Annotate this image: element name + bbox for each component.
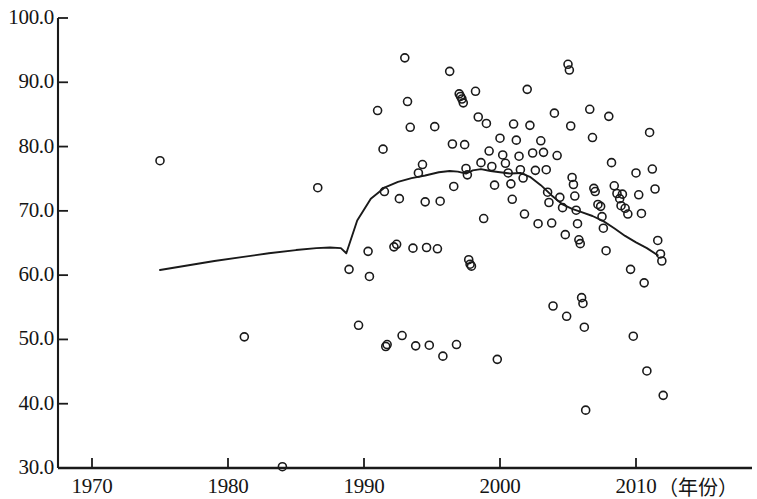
y-axis-tick-label: 70.0 [0, 198, 54, 223]
scatter-point [637, 209, 645, 217]
scatter-point [526, 121, 534, 129]
scatter-point [423, 244, 431, 252]
scatter-point [646, 128, 654, 136]
scatter-point [635, 191, 643, 199]
y-axis-ticks [58, 18, 68, 468]
x-axis-tick-label: 1990 [324, 474, 404, 499]
scatter-point [374, 107, 382, 115]
scatter-point [418, 161, 426, 169]
y-axis-tick-label: 90.0 [0, 69, 54, 94]
scatter-point [485, 147, 493, 155]
scatter-point [580, 323, 588, 331]
scatter-point [512, 136, 520, 144]
scatter-point [446, 67, 454, 75]
scatter-point [409, 244, 417, 252]
scatter-point [278, 463, 286, 471]
x-axis-tick-label: 1980 [188, 474, 268, 499]
plot-canvas [0, 0, 757, 499]
scatter-point [510, 120, 518, 128]
scatter-point [567, 122, 575, 130]
scatter-point [627, 265, 635, 273]
scatter-point [515, 152, 523, 160]
scatter-point [632, 169, 640, 177]
scatter-point [542, 166, 550, 174]
x-axis-label: （年份） [658, 472, 738, 499]
scatter-point [401, 54, 409, 62]
scatter-point [507, 180, 515, 188]
scatter-point [461, 141, 469, 149]
scatter-point [406, 123, 414, 131]
x-axis-ticks [92, 458, 636, 468]
y-axis-tick-label: 100.0 [0, 5, 54, 30]
scatter-point [534, 220, 542, 228]
scatter-point [537, 137, 545, 145]
scatter-point [529, 149, 537, 157]
scatter-point [548, 219, 556, 227]
scatter-point [643, 367, 651, 375]
scatter-point [345, 265, 353, 273]
scatter-point [550, 109, 558, 117]
x-axis-tick-label: 2000 [460, 474, 540, 499]
scatter-points [156, 54, 667, 471]
scatter-point [472, 87, 480, 95]
scatter-point [608, 159, 616, 167]
scatter-point [412, 342, 420, 350]
scatter-point [488, 163, 496, 171]
scatter-point [553, 152, 561, 160]
scatter-point [474, 113, 482, 121]
scatter-point [610, 182, 618, 190]
x-axis-tick-label: 1970 [52, 474, 132, 499]
scatter-point [540, 148, 548, 156]
scatter-point [314, 184, 322, 192]
scatter-point [599, 224, 607, 232]
scatter-point [563, 312, 571, 320]
scatter-point [545, 199, 553, 207]
scatter-point [355, 321, 363, 329]
y-axis-tick-label: 50.0 [0, 326, 54, 351]
y-axis-tick-label: 60.0 [0, 262, 54, 287]
axes [58, 18, 752, 468]
scatter-point [605, 112, 613, 120]
scatter-point [491, 181, 499, 189]
scatter-point [493, 355, 501, 363]
scatter-point [582, 406, 590, 414]
scatter-point [364, 247, 372, 255]
scatter-point [421, 198, 429, 206]
scatter-point [520, 210, 528, 218]
scatter-point [433, 245, 441, 253]
scatter-point [501, 159, 509, 167]
scatter-point [549, 302, 557, 310]
scatter-point [586, 105, 594, 113]
scatter-point [448, 140, 456, 148]
scatter-point [240, 333, 248, 341]
scatter-point [452, 341, 460, 349]
scatter-point [654, 236, 662, 244]
y-axis-tick-label: 80.0 [0, 134, 54, 159]
scatter-point [499, 151, 507, 159]
scatter-point [436, 197, 444, 205]
y-axis-tick-label: 40.0 [0, 391, 54, 416]
scatter-point [659, 391, 667, 399]
scatter-point [431, 123, 439, 131]
scatter-point [365, 272, 373, 280]
scatter-point [561, 231, 569, 239]
scatter-point [651, 185, 659, 193]
trend-line [160, 169, 658, 270]
scatter-point [574, 220, 582, 228]
scatter-point [482, 119, 490, 127]
scatter-point [602, 247, 610, 255]
scatter-point [648, 165, 656, 173]
scatter-point [531, 166, 539, 174]
scatter-point [496, 134, 504, 142]
scatter-point [588, 134, 596, 142]
scatter-point [523, 85, 531, 93]
scatter-point [425, 341, 433, 349]
scatter-point [398, 332, 406, 340]
scatter-point [508, 195, 516, 203]
y-axis-tick-label: 30.0 [0, 455, 54, 480]
scatter-point [404, 98, 412, 106]
scatter-point [480, 215, 488, 223]
scatter-point [571, 192, 579, 200]
scatter-point [156, 157, 164, 165]
scatter-point [629, 332, 637, 340]
